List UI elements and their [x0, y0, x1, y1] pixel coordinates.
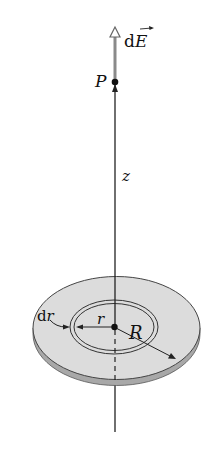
dE-vector-shaft [114, 36, 117, 82]
dr-label: dr [37, 309, 54, 324]
z-axis-label: z [122, 169, 130, 184]
E-vector-overarrow-head [149, 26, 154, 30]
disk-radius-label: R [129, 324, 143, 342]
point-P-dot [112, 79, 119, 86]
dE-label: dE [124, 33, 147, 50]
ring-radius-label: r [97, 312, 104, 327]
diagram-canvas [0, 0, 223, 450]
point-P-label: P [95, 73, 106, 90]
disk-center-dot [111, 324, 117, 330]
dE-vector-head [110, 27, 120, 37]
disk-field-diagram: dE P z dr r R [0, 0, 223, 450]
